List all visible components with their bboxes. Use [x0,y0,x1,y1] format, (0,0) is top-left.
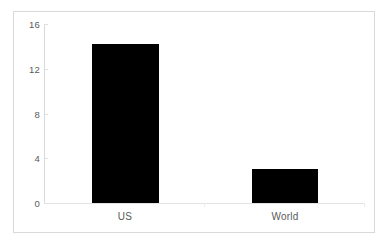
y-tick-mark-8 [44,114,48,115]
y-tick-mark-12 [44,69,48,70]
y-axis-label-12: 12 [14,65,40,75]
y-tick-mark-4 [44,158,48,159]
y-axis-label-16: 16 [14,20,40,30]
bar-chart-figure: 16 12 8 4 0 US World [0,0,391,250]
y-tick-mark-16 [44,24,48,25]
x-axis-label-us: US [85,211,165,223]
y-axis-label-8: 8 [14,110,40,120]
x-tick-mark-category-boundary [204,203,205,207]
y-axis-label-0: 0 [14,199,40,209]
chart-frame-border [13,11,375,233]
x-axis-label-world: World [245,211,325,223]
bar-world[interactable] [252,169,318,203]
bar-us[interactable] [92,44,159,203]
y-axis-tick-labels: 16 12 8 4 0 [14,0,40,250]
y-axis-label-4: 4 [14,154,40,164]
x-tick-mark-axis-end [364,203,365,207]
